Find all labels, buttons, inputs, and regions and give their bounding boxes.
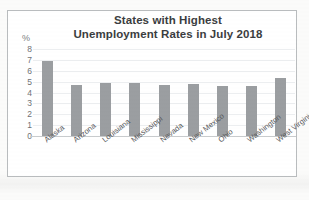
chart-title-line-2: Unemployment Rates in July 2018: [44, 28, 292, 42]
y-tick-label: 2: [27, 110, 32, 119]
plot-area: [33, 49, 295, 136]
gridline: [33, 71, 295, 72]
gridline: [33, 82, 295, 83]
y-tick-label: 6: [27, 67, 32, 76]
chart-title: States with Highest Unemployment Rates i…: [44, 14, 292, 41]
y-tick-label: 7: [27, 56, 32, 65]
y-tick-label: 5: [27, 77, 32, 86]
y-axis-unit-label: %: [22, 33, 30, 43]
y-tick-label: 3: [27, 99, 32, 108]
y-tick-label: 8: [27, 45, 32, 54]
gridline: [33, 49, 295, 50]
bar-mississippi: [129, 83, 140, 136]
chart-figure-frame: States with Highest Unemployment Rates i…: [7, 10, 297, 177]
bar-louisiana: [100, 83, 111, 136]
bar-west-virginia: [275, 78, 286, 136]
bar-alaska: [42, 61, 53, 136]
gridline: [33, 60, 295, 61]
y-tick-label: 4: [27, 88, 32, 97]
y-axis-tick-labels: 876543210: [21, 49, 32, 136]
y-tick-label: 1: [27, 121, 32, 130]
x-axis-tick-labels: AlaskaArizonaLouisianaMississippiNevadaN…: [33, 138, 299, 183]
chart-title-line-1: States with Highest: [44, 14, 292, 28]
